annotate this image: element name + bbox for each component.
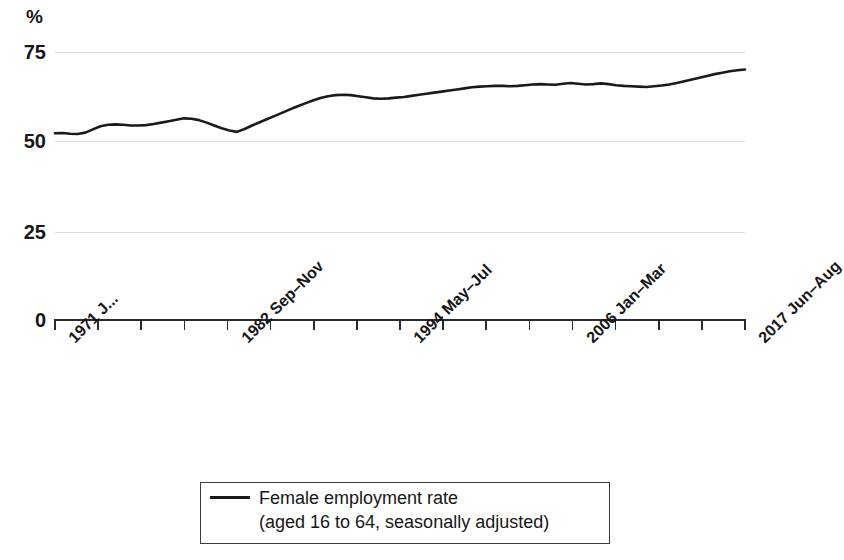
legend-swatch-cell [201, 483, 259, 499]
legend: Female employment rate (aged 16 to 64, s… [200, 482, 610, 544]
gridline-75 [55, 52, 745, 53]
x-axis-label-16: 2017 Jun–Aug [755, 334, 768, 347]
legend-text-block: Female employment rate (aged 16 to 64, s… [259, 483, 557, 535]
x-axis-tick-8 [399, 319, 401, 330]
x-axis-tick-11 [529, 319, 531, 330]
y-axis-unit-label: % [26, 6, 43, 28]
x-axis-tick-10 [485, 319, 487, 330]
legend-line-swatch [210, 496, 250, 499]
gridline-25 [55, 232, 745, 233]
series-line-female-employment-rate [55, 69, 745, 134]
y-tick-label-25: 25 [0, 221, 46, 244]
legend-series-label: Female employment rate [259, 487, 549, 511]
y-tick-label-75: 75 [0, 41, 46, 64]
x-axis-tick-15 [701, 319, 703, 330]
legend-series-sublabel: (aged 16 to 64, seasonally adjusted) [259, 511, 549, 535]
x-axis-label-4: 1982 Sep–Nov [238, 334, 251, 347]
x-axis-label-12: 2006 Jan–Mar [583, 334, 596, 347]
x-axis-tick-6 [313, 319, 315, 330]
x-axis-label-8: 1994 May–Jul [410, 334, 423, 347]
x-axis-tick-14 [658, 319, 660, 330]
y-tick-label-0: 0 [0, 309, 46, 332]
y-tick-label-50: 50 [0, 130, 46, 153]
x-axis-tick-0 [54, 319, 56, 330]
x-axis-tick-12 [572, 319, 574, 330]
x-axis-tick-4 [227, 319, 229, 330]
x-axis-tick-2 [140, 319, 142, 330]
x-axis-tick-3 [184, 319, 186, 330]
gridline-50 [55, 141, 745, 142]
x-axis-label-0: 1971 J... [65, 334, 78, 347]
x-axis-tick-7 [356, 319, 358, 330]
x-axis-tick-16 [744, 319, 746, 330]
